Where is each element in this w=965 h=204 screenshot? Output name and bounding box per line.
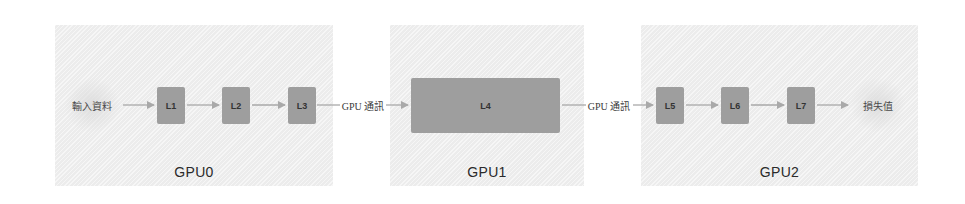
gpu-comm-label-1: GPU 通訊 (342, 98, 385, 113)
layer-l3: L3 (288, 87, 316, 124)
gpu-comm-label-2: GPU 通訊 (588, 98, 631, 113)
layer-l4: L4 (411, 78, 560, 133)
layer-l5: L5 (656, 87, 684, 124)
layer-l7: L7 (787, 87, 815, 124)
layer-l1: L1 (157, 87, 185, 124)
layer-l2: L2 (222, 87, 250, 124)
input-data-node: 輸入資料 (72, 98, 112, 113)
layer-l6: L6 (721, 87, 749, 124)
loss-node: 損失值 (863, 98, 893, 113)
